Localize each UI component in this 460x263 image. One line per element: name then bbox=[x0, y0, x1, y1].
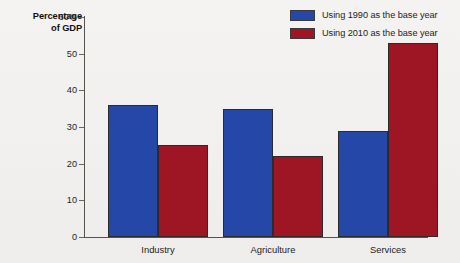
bar-services-series2 bbox=[388, 43, 438, 237]
bar-agriculture-series1 bbox=[223, 109, 273, 237]
y-tick-label-20: 20 bbox=[67, 159, 77, 169]
y-axis-title-line-2: of GDP bbox=[14, 23, 82, 35]
y-tick-label-0: 0 bbox=[72, 232, 77, 242]
y-axis-line bbox=[84, 16, 85, 238]
bar-services-series1 bbox=[338, 131, 388, 237]
y-tick-label-30: 30 bbox=[67, 122, 77, 132]
bar-agriculture-series2 bbox=[273, 156, 323, 237]
y-tick-mark-30 bbox=[79, 127, 84, 128]
bar-industry-series2 bbox=[158, 145, 208, 237]
x-axis-line bbox=[84, 237, 428, 238]
y-tick-mark-50 bbox=[79, 54, 84, 55]
x-axis-label-industry: Industry bbox=[141, 244, 174, 255]
plot-area: 0102030405060% IndustryAgricultureServic… bbox=[84, 16, 428, 238]
bar-chart-figure: Percentage of GDP Using 1990 as the base… bbox=[0, 0, 460, 263]
x-axis-label-agriculture: Agriculture bbox=[251, 244, 296, 255]
y-tick-mark-10 bbox=[79, 200, 84, 201]
y-tick-mark-60 bbox=[79, 17, 84, 18]
y-tick-label-60: 60% bbox=[59, 12, 77, 22]
y-tick-label-50: 50 bbox=[67, 49, 77, 59]
y-tick-mark-0 bbox=[79, 237, 84, 238]
bar-industry-series1 bbox=[108, 105, 158, 237]
y-tick-label-10: 10 bbox=[67, 195, 77, 205]
x-axis-label-services: Services bbox=[370, 244, 406, 255]
y-tick-mark-20 bbox=[79, 164, 84, 165]
y-tick-label-40: 40 bbox=[67, 85, 77, 95]
y-tick-mark-40 bbox=[79, 90, 84, 91]
